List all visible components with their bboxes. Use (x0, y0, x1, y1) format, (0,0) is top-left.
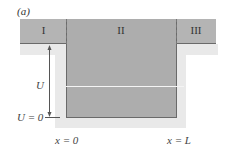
x-zero-label: x = 0 (55, 134, 78, 146)
zero-energy-label: U = 0 (17, 111, 43, 123)
depth-arrow-icon (0, 0, 228, 164)
x-L-label: x = L (167, 134, 191, 146)
depth-label: U (36, 79, 44, 91)
